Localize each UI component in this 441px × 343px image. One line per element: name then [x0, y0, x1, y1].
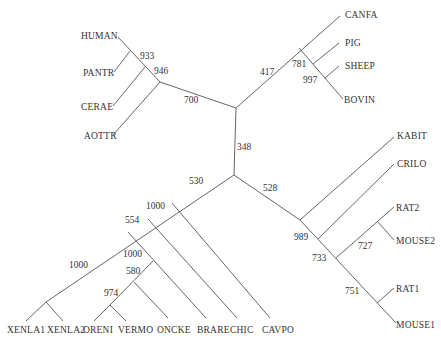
- bootstrap-1000-upper: 1000: [146, 201, 165, 211]
- leaf-oncke: ONCKE: [157, 325, 191, 335]
- edge-rat1: [377, 288, 394, 303]
- leaf-rat2: RAT2: [396, 203, 420, 213]
- bootstrap-700: 700: [184, 95, 199, 105]
- leaf-xenla1: XENLA1: [7, 325, 45, 335]
- edge-bovid-trunk: [299, 48, 343, 99]
- bootstrap-348: 348: [237, 142, 252, 152]
- edge-pantr: [114, 51, 130, 72]
- edge-to-canfa: [236, 16, 340, 108]
- leaf-bovin: BOVIN: [344, 95, 375, 105]
- bootstrap-997: 997: [303, 75, 318, 85]
- leaf-vermo: VERMO: [118, 325, 153, 335]
- edge-to-rodents: [234, 175, 300, 220]
- edge-oncke: [134, 282, 168, 318]
- leaf-cerae: CERAE: [81, 102, 113, 112]
- edge-aottr: [113, 82, 160, 135]
- bootstrap-733: 733: [312, 253, 327, 263]
- bootstrap-727: 727: [358, 241, 373, 251]
- leaf-human: HUMAN: [81, 31, 118, 41]
- bootstrap-946: 946: [154, 66, 169, 76]
- edge-xenla1: [26, 302, 46, 321]
- leaf-labels: HUMAN PANTR CERAE AOTTR CANFA PIG SHEEP …: [7, 10, 435, 335]
- edge-cerae: [113, 67, 145, 106]
- edge-sheep: [325, 66, 339, 78]
- leaf-pig: PIG: [345, 38, 361, 48]
- leaf-canfa: CANFA: [345, 10, 378, 20]
- tree-edges: [26, 16, 396, 323]
- bootstrap-417: 417: [260, 67, 275, 77]
- bootstrap-580: 580: [126, 266, 141, 276]
- bootstrap-1000-middle: 1000: [123, 249, 142, 259]
- bootstrap-528: 528: [263, 183, 278, 193]
- edge-mouse2: [378, 222, 394, 240]
- bootstrap-554: 554: [125, 215, 140, 225]
- bootstrap-933: 933: [140, 51, 155, 61]
- leaf-mouse2: MOUSE2: [396, 236, 435, 246]
- leaf-rat1: RAT1: [396, 284, 420, 294]
- bootstrap-530: 530: [189, 176, 204, 186]
- leaf-sheep: SHEEP: [345, 61, 375, 71]
- leaf-kabit: KABIT: [397, 131, 427, 141]
- phylogenetic-tree: HUMAN PANTR CERAE AOTTR CANFA PIG SHEEP …: [0, 0, 441, 343]
- bootstrap-781: 781: [292, 59, 307, 69]
- edge-vermo: [110, 305, 126, 321]
- leaf-aottr: AOTTR: [84, 131, 117, 141]
- leaf-oreni: ORENI: [83, 325, 113, 335]
- leaf-xenla2: XENLA2: [47, 325, 85, 335]
- bootstrap-values: 933 946 700 417 781 997 348 528 530 989 …: [69, 51, 373, 298]
- bootstrap-974: 974: [104, 288, 119, 298]
- bootstrap-751: 751: [345, 286, 360, 296]
- leaf-crilo: CRILO: [397, 159, 427, 169]
- edge-central: [234, 108, 236, 175]
- leaf-chic: CHIC: [230, 325, 254, 335]
- leaf-cavpo: CAVPO: [262, 325, 294, 335]
- edge-oreni: [94, 305, 110, 321]
- leaf-pantr: PANTR: [83, 68, 115, 78]
- leaf-brare: BRARE: [197, 325, 230, 335]
- bootstrap-1000-lower: 1000: [69, 260, 88, 270]
- bootstrap-989: 989: [294, 232, 309, 242]
- edge-rodent-trunk: [300, 220, 396, 323]
- edge-xenla2: [46, 302, 63, 321]
- leaf-mouse1: MOUSE1: [396, 320, 435, 330]
- edge-pig: [313, 43, 339, 64]
